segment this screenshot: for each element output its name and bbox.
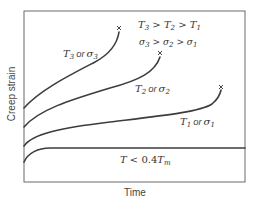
- curve-t3: [24, 32, 119, 108]
- y-axis-title: Creep strain: [6, 67, 17, 121]
- label-t3: T3orσ3: [63, 48, 98, 61]
- label-t1: T1orσ1: [180, 116, 215, 129]
- label-low-temp: T < 0.4Tm: [120, 154, 171, 167]
- curve-t1: [24, 90, 221, 146]
- rupture-marker-t1: [219, 85, 223, 89]
- rupture-marker-t3: [117, 26, 121, 30]
- label-t2: T2orσ2: [135, 83, 170, 96]
- rupture-marker-t2: [158, 51, 162, 55]
- creep-diagram: T3 > T2 > T1 σ3 > σ2 > σ1 T3orσ3 T2orσ2 …: [0, 0, 257, 203]
- stress-ordering-label: σ3 > σ2 > σ1: [139, 37, 197, 49]
- x-axis-title: Time: [124, 187, 146, 198]
- temperature-ordering-label: T3 > T2 > T1: [138, 19, 201, 32]
